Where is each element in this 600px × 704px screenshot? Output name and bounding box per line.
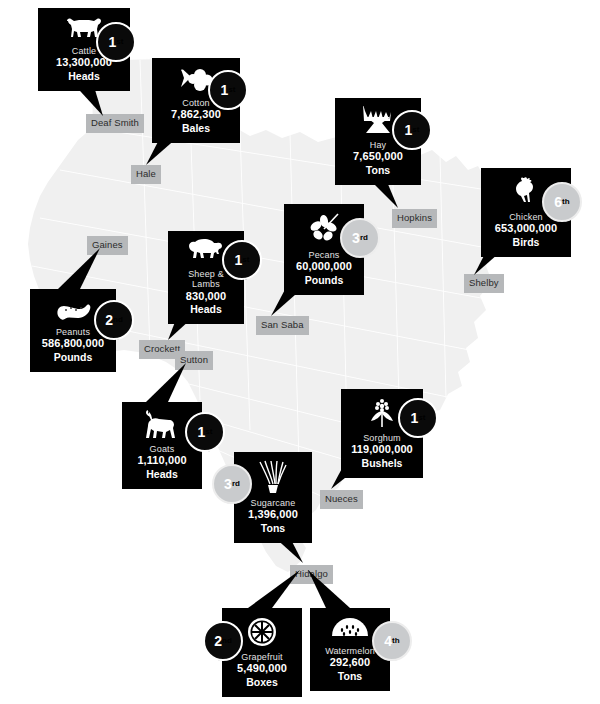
commodity-value: 60,000,000 <box>290 260 358 273</box>
rosette-disc: 4th <box>372 621 412 661</box>
county-label: Nueces <box>320 490 363 509</box>
rank-suffix: st <box>205 428 212 436</box>
rank-suffix: st <box>242 256 249 264</box>
rank-number: 1 <box>109 35 117 49</box>
county-label: Hale <box>131 165 161 184</box>
rank-rosette-hay: 1st <box>392 110 432 150</box>
commodity-value: 5,490,000 <box>228 662 296 675</box>
rosette-disc: 6th <box>542 182 582 222</box>
rosette-disc: 1st <box>398 398 438 438</box>
commodity-unit: Birds <box>487 236 565 249</box>
rosette-disc: 1st <box>185 412 225 452</box>
rank-number: 2 <box>105 313 113 327</box>
rank-number: 6 <box>554 195 562 209</box>
rank-suffix: st <box>228 86 235 94</box>
rosette-disc: 1st <box>392 110 432 150</box>
rank-rosette-sugarcane: 3rd <box>212 464 252 504</box>
commodity-unit: Heads <box>128 468 196 481</box>
rank-number: 1 <box>221 83 229 97</box>
rosette-disc: 1st <box>96 22 136 62</box>
commodity-unit: Boxes <box>228 676 296 689</box>
rank-suffix: st <box>116 38 123 46</box>
commodity-value: 119,000,000 <box>347 443 417 456</box>
rank-number: 1 <box>235 253 243 267</box>
rank-rosette-goats: 1st <box>185 412 225 452</box>
commodity-value: 1,110,000 <box>128 454 196 467</box>
rank-suffix: st <box>418 414 425 422</box>
rosette-disc: 2nd <box>94 300 134 340</box>
rank-suffix: nd <box>222 637 232 645</box>
rank-rosette-cattle: 1st <box>96 22 136 62</box>
rank-suffix: th <box>562 198 570 206</box>
county-label: Deaf Smith <box>86 114 144 133</box>
rank-suffix: rd <box>232 480 240 488</box>
rank-suffix: th <box>392 637 400 645</box>
rank-rosette-peanuts: 2nd <box>94 300 134 340</box>
rank-rosette-chicken: 6th <box>542 182 582 222</box>
rosette-disc: 1st <box>222 240 262 280</box>
rank-rosette-sorghum: 1st <box>398 398 438 438</box>
rosette-disc: 1st <box>208 70 248 110</box>
infographic-canvas: Deaf SmithHaleGainesCrockettSuttonSan Sa… <box>0 0 600 704</box>
rank-rosette-grapefruit: 2nd <box>203 621 243 661</box>
rank-suffix: st <box>412 126 419 134</box>
commodity-unit: Tons <box>240 522 306 535</box>
rank-number: 1 <box>405 123 413 137</box>
commodity-unit: Tons <box>341 164 415 177</box>
rosette-disc: 2nd <box>203 621 243 661</box>
commodity-unit: Heads <box>174 303 238 316</box>
commodity-value: 1,396,000 <box>240 508 306 521</box>
county-label: Hidalgo <box>290 565 333 584</box>
commodity-value: 830,000 <box>174 290 238 303</box>
commodity-unit: Pounds <box>290 274 358 287</box>
rank-rosette-pecans: 3rd <box>340 218 380 258</box>
rank-number: 1 <box>411 411 419 425</box>
rosette-disc: 3rd <box>340 218 380 258</box>
rank-number: 3 <box>352 231 360 245</box>
commodity-unit: Tons <box>316 670 384 683</box>
commodity-unit: Bushels <box>347 457 417 470</box>
rank-number: 4 <box>384 634 392 648</box>
rank-suffix: nd <box>113 316 123 324</box>
rank-rosette-cotton: 1st <box>208 70 248 110</box>
commodity-unit: Heads <box>44 70 124 83</box>
county-label: San Saba <box>256 316 309 335</box>
rank-suffix: rd <box>360 234 368 242</box>
county-label: Sutton <box>175 351 213 370</box>
rank-number: 3 <box>224 477 232 491</box>
rosette-disc: 3rd <box>212 464 252 504</box>
county-label: Gaines <box>87 236 128 255</box>
county-label: Hopkins <box>392 209 437 228</box>
rank-rosette-watermelon: 4th <box>372 621 412 661</box>
county-label: Shelby <box>464 274 504 293</box>
rank-number: 1 <box>198 425 206 439</box>
commodity-unit: Pounds <box>36 351 110 364</box>
rank-rosette-sheep-lambs: 1st <box>222 240 262 280</box>
rank-number: 2 <box>214 634 222 648</box>
commodity-unit: Bales <box>158 122 234 135</box>
